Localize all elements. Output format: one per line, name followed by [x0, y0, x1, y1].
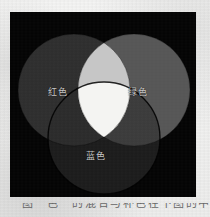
venn-label-red: 红色 — [48, 85, 67, 98]
figure-caption-strip: 图 色 的混合与补色在下图的中心部分 — [0, 203, 210, 217]
venn-svg — [10, 12, 196, 197]
figure-caption-text: 图 色 的混合与补色在下图的中心部分 — [22, 203, 210, 210]
page-root: 红色 绿色 蓝色 图 色 的混合与补色在下图的中心部分 — [0, 0, 210, 217]
venn-label-green: 绿色 — [128, 85, 147, 98]
venn-label-blue: 蓝色 — [86, 149, 105, 162]
venn-diagram-figure: 红色 绿色 蓝色 — [10, 12, 196, 197]
